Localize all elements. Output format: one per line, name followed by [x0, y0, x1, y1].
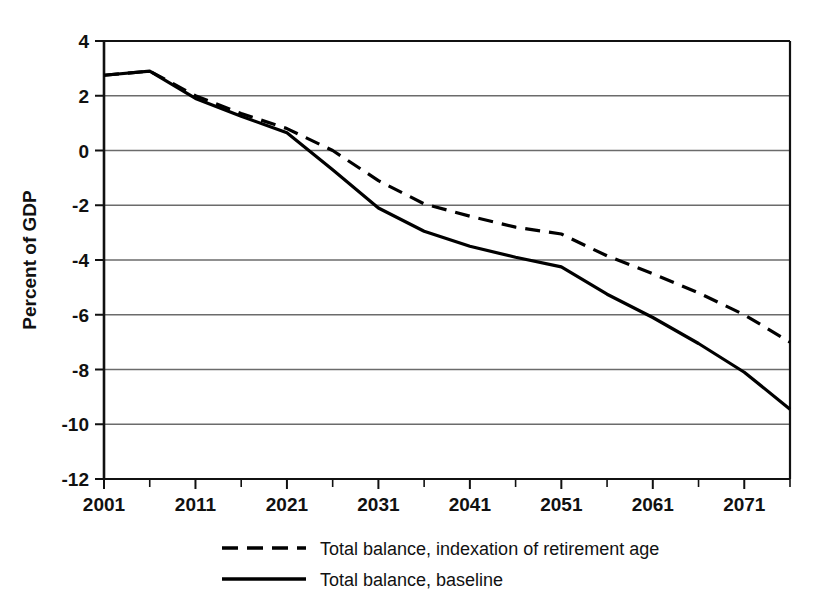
y-axis-title: Percent of GDP [19, 190, 40, 330]
y-tick-label: 4 [78, 31, 89, 52]
y-tick-label: -2 [72, 195, 89, 216]
legend-label: Total balance, indexation of retirement … [320, 539, 659, 559]
x-tick-label: 2061 [632, 494, 675, 515]
y-tick-label: -6 [72, 305, 89, 326]
chart-figure: 420-2-4-6-8-10-12 2001201120212031204120… [0, 0, 831, 613]
x-tick-label: 2011 [175, 494, 217, 515]
x-tick-label: 2001 [83, 494, 126, 515]
x-tick-label: 2021 [266, 494, 309, 515]
chart-background [0, 0, 831, 613]
y-axis-title-text: Percent of GDP [19, 190, 40, 330]
y-tick-label: -4 [72, 250, 89, 271]
y-tick-label: 2 [78, 86, 89, 107]
x-tick-label: 2071 [723, 494, 766, 515]
x-tick-label: 2031 [357, 494, 400, 515]
line-chart: 420-2-4-6-8-10-12 2001201120212031204120… [0, 0, 831, 613]
y-tick-label: -10 [62, 414, 89, 435]
x-tick-label: 2051 [540, 494, 583, 515]
x-tick-label: 2041 [449, 494, 492, 515]
y-tick-label: -12 [62, 469, 89, 490]
legend-label: Total balance, baseline [320, 570, 503, 590]
y-tick-label: 0 [78, 141, 89, 162]
y-tick-label: -8 [72, 360, 89, 381]
